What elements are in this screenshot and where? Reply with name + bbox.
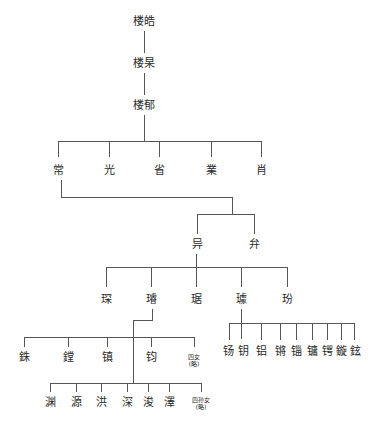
connector [354, 323, 355, 340]
connector [127, 383, 128, 392]
connector [241, 267, 242, 287]
node-gen4: 光 [104, 165, 115, 177]
node-gen5: 弁 [249, 239, 260, 251]
connector [50, 383, 202, 384]
connector [169, 383, 170, 392]
node-gen7: 钧 [146, 352, 157, 364]
connector [280, 323, 281, 340]
connector [296, 323, 297, 340]
node-gen4: 常 [53, 165, 64, 177]
connector [144, 31, 145, 53]
connector [261, 141, 262, 157]
connector [197, 214, 255, 215]
node-gen7: 鉉 [350, 346, 361, 358]
connector [197, 214, 198, 234]
node-gen8: 源 [71, 397, 82, 409]
connector [24, 337, 25, 347]
node-gen4: 省 [154, 165, 165, 177]
connector [152, 309, 153, 320]
connector [133, 320, 134, 383]
connector [327, 323, 328, 340]
connector [151, 337, 152, 347]
node-gen6: 璿 [146, 294, 157, 306]
connector [24, 337, 195, 338]
connector [194, 337, 195, 347]
node-gen7: 钥 [238, 346, 249, 358]
note-line2: (略) [188, 360, 200, 367]
node-gen8-note: 四孙女 (略) [192, 396, 210, 410]
connector [133, 320, 153, 321]
node-gen7: 鏜 [63, 352, 74, 364]
node-gen8: 洪 [96, 397, 107, 409]
node-gen7: 锷 [322, 346, 333, 358]
connector [211, 141, 212, 157]
connector [229, 323, 230, 340]
node-gen7: 镛 [307, 346, 318, 358]
connector [241, 309, 242, 339]
connector [159, 141, 160, 157]
connector [229, 323, 355, 324]
connector [106, 267, 107, 287]
connector [109, 141, 110, 157]
node-gen7: 銖 [19, 352, 30, 364]
connector [101, 383, 102, 392]
node-gen8: 澤 [164, 397, 175, 409]
node-gen7: 鏇 [336, 346, 347, 358]
connector [61, 180, 62, 197]
node-gen7: 钖 [223, 346, 234, 358]
connector [341, 323, 342, 340]
node-gen8: 深 [122, 397, 133, 409]
connector [50, 383, 51, 392]
node-gen7-note: 四女 (略) [188, 353, 200, 367]
node-gen4: 業 [206, 165, 217, 177]
connector [196, 254, 197, 267]
note-line1: 四女 [188, 353, 200, 360]
node-gen1: 楼皓 [133, 16, 155, 28]
node-gen7: 锱 [291, 346, 302, 358]
connector [148, 383, 149, 392]
node-gen7: 镇 [102, 352, 113, 364]
node-gen6: 琛 [101, 294, 112, 306]
node-gen6: 璩 [236, 294, 247, 306]
connector [106, 267, 288, 268]
node-gen8: 浚 [143, 397, 154, 409]
node-gen6: 琚 [191, 294, 202, 306]
node-gen4: 肖 [256, 165, 267, 177]
node-gen2: 楼杲 [133, 58, 155, 70]
connector [196, 267, 197, 287]
connector [254, 214, 255, 234]
connector [58, 141, 262, 142]
note-line1: 四孙女 [192, 396, 210, 403]
connector [201, 383, 202, 392]
node-gen7: 铝 [256, 346, 267, 358]
note-line2: (略) [192, 403, 210, 410]
connector [312, 323, 313, 340]
connector [76, 383, 77, 392]
node-gen6: 玢 [282, 294, 293, 306]
node-gen5: 异 [192, 239, 203, 251]
connector [287, 267, 288, 287]
connector [107, 337, 108, 347]
node-gen3: 楼郁 [133, 100, 155, 112]
connector [151, 267, 152, 287]
connector [144, 73, 145, 95]
connector [58, 141, 59, 157]
connector [261, 323, 262, 340]
node-gen7: 锵 [275, 346, 286, 358]
connector [61, 197, 232, 198]
connector [68, 337, 69, 347]
connector [144, 115, 145, 141]
connector [232, 197, 233, 214]
node-gen8: 渊 [45, 397, 56, 409]
